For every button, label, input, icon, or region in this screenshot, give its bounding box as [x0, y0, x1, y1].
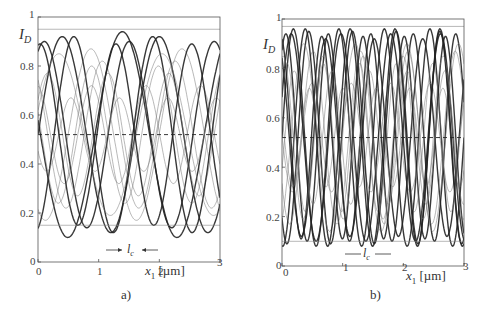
coherence-length-label-a: lc: [127, 242, 134, 258]
panel-caption-b: b): [370, 287, 381, 303]
x-axis-label-a: x1 [µm]: [145, 263, 185, 281]
y-axis-label-b: ID: [263, 36, 275, 55]
ytick-1: 1: [276, 12, 282, 23]
ytick-0.4: 0.4: [20, 159, 34, 170]
ytick-0.6: 0.6: [266, 113, 280, 124]
ytick-0: 0: [276, 260, 282, 271]
y-axis-label-a: ID: [19, 26, 31, 45]
ytick-0.8: 0.8: [266, 64, 280, 75]
xtick-3: 3: [217, 257, 223, 268]
xtick-0: 0: [283, 267, 289, 278]
ytick-0: 0: [30, 256, 36, 267]
xtick-3: 3: [463, 261, 469, 272]
panel-caption-a: a): [121, 287, 131, 303]
xtick-0: 0: [36, 266, 42, 277]
ytick-0.4: 0.4: [266, 163, 280, 174]
xtick-1: 1: [343, 262, 349, 273]
xtick-1: 1: [97, 266, 103, 277]
ytick-0.2: 0.2: [266, 212, 280, 223]
chart-panel-a: 1 0.8 0.6 0.4 0.2 0 0 1 2 3 ID x1 [µm] a…: [0, 0, 243, 313]
coherence-length-label-b: lc: [363, 246, 370, 262]
x-axis-label-b: x1 [µm]: [406, 268, 446, 286]
ytick-0.8: 0.8: [20, 61, 34, 72]
chart-panel-b: 1 0.8 0.6 0.4 0.2 0 0 1 2 3 ID x1 [µm] b…: [243, 0, 487, 313]
ytick-0.6: 0.6: [20, 110, 34, 121]
ytick-1: 1: [29, 9, 35, 20]
ytick-0.2: 0.2: [20, 208, 34, 219]
